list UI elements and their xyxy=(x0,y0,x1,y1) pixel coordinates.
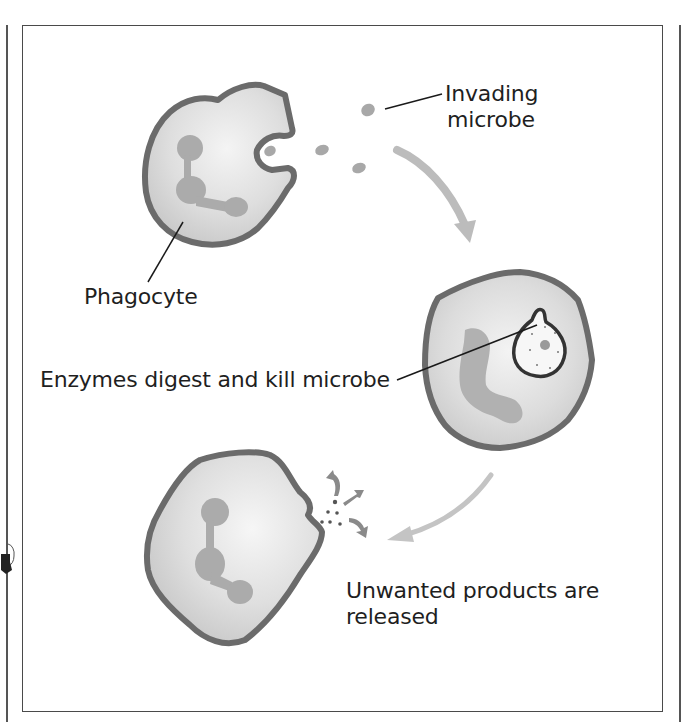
label-invading-microbe-line1: Invading xyxy=(445,81,538,107)
microbe-in-notch xyxy=(262,144,277,159)
arrow-step-1-to-2 xyxy=(397,150,476,243)
arrow-step-2-to-3 xyxy=(387,475,491,542)
label-invading-microbe-line2: microbe xyxy=(447,107,538,133)
label-unwanted-line1: Unwanted products are xyxy=(346,578,599,604)
label-phagocyte: Phagocyte xyxy=(84,284,198,310)
microbe xyxy=(351,161,368,175)
label-unwanted-line2: released xyxy=(346,604,599,630)
released-products xyxy=(320,470,368,538)
label-invading-microbe: Invading microbe xyxy=(445,81,538,133)
microbe xyxy=(314,143,331,157)
invading-microbe-leader-line xyxy=(385,94,442,109)
microbe-digesting xyxy=(540,340,550,350)
label-enzymes: Enzymes digest and kill microbe xyxy=(40,367,390,393)
label-unwanted-products: Unwanted products are released xyxy=(346,578,599,630)
phagocyte-cell-1 xyxy=(145,85,294,245)
phagocyte-cell-3 xyxy=(147,452,322,643)
microbe-labeled xyxy=(359,101,377,118)
